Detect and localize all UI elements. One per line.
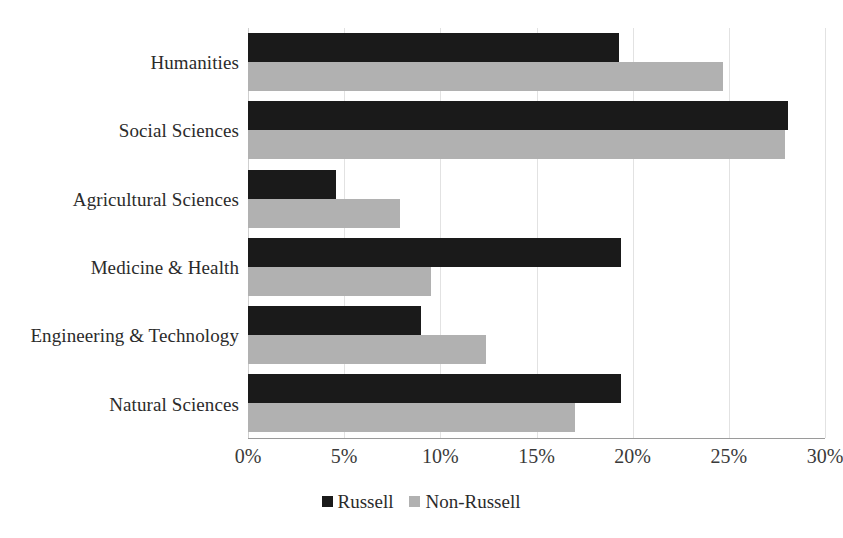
bar-non-russell (248, 62, 723, 91)
chart-legend: RussellNon-Russell (0, 492, 842, 511)
bar-russell (248, 33, 619, 62)
category-label: Humanities (150, 53, 248, 72)
x-tick-label: 25% (710, 446, 747, 466)
bar-group (248, 238, 825, 296)
bar-russell (248, 238, 621, 267)
legend-item[interactable]: Russell (322, 492, 394, 511)
bar-group (248, 101, 825, 159)
bar-russell (248, 306, 421, 335)
legend-swatch-icon (409, 496, 420, 507)
bar-group (248, 374, 825, 432)
category-row: Agricultural Sciences (0, 165, 842, 233)
x-tick-label: 5% (331, 446, 358, 466)
category-label: Agricultural Sciences (73, 189, 248, 208)
category-label: Medicine & Health (91, 258, 248, 277)
category-label: Social Sciences (119, 121, 248, 140)
bar-non-russell (248, 199, 400, 228)
category-rows: HumanitiesSocial SciencesAgricultural Sc… (0, 28, 842, 438)
x-axis-tick-labels: 0%5%10%15%20%25%30% (248, 446, 825, 476)
x-axis-line (248, 438, 825, 439)
category-row: Medicine & Health (0, 233, 842, 301)
bar-russell (248, 170, 336, 199)
legend-swatch-icon (322, 496, 333, 507)
category-row: Humanities (0, 28, 842, 96)
category-row: Social Sciences (0, 96, 842, 164)
category-row: Engineering & Technology (0, 301, 842, 369)
x-tick-label: 20% (614, 446, 651, 466)
bar-group (248, 306, 825, 364)
x-tick-label: 0% (235, 446, 262, 466)
x-tick-label: 10% (422, 446, 459, 466)
bar-non-russell (248, 335, 486, 364)
x-tick-label: 30% (807, 446, 843, 466)
category-label: Engineering & Technology (30, 326, 248, 345)
bar-group (248, 170, 825, 228)
bar-russell (248, 101, 788, 130)
category-row: Natural Sciences (0, 369, 842, 437)
bar-non-russell (248, 130, 785, 159)
legend-item[interactable]: Non-Russell (409, 492, 520, 511)
bar-group (248, 33, 825, 91)
legend-label: Russell (338, 492, 394, 511)
bar-non-russell (248, 403, 575, 432)
bar-non-russell (248, 267, 431, 296)
bar-russell (248, 374, 621, 403)
legend-label: Non-Russell (425, 492, 520, 511)
x-tick-label: 15% (518, 446, 555, 466)
category-label: Natural Sciences (109, 394, 248, 413)
